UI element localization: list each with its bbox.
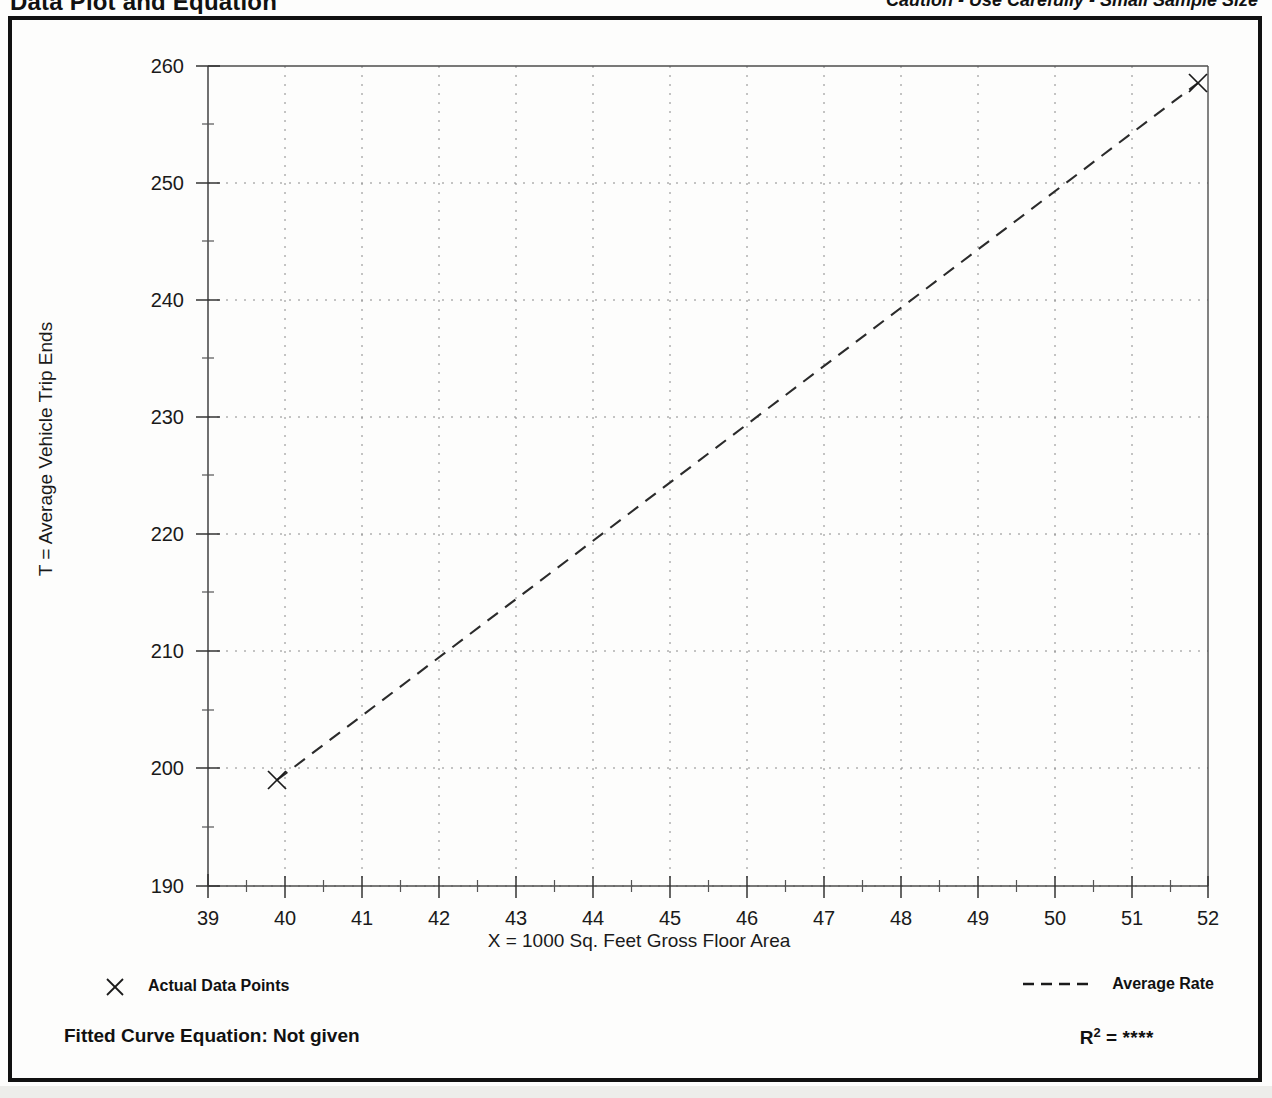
svg-text:210: 210 bbox=[151, 640, 184, 662]
svg-text:48: 48 bbox=[890, 907, 912, 929]
svg-text:40: 40 bbox=[274, 907, 296, 929]
svg-text:230: 230 bbox=[151, 406, 184, 428]
x-tick-labels: 39 40 41 42 43 44 45 46 47 48 49 50 51 5… bbox=[197, 907, 1219, 929]
svg-text:49: 49 bbox=[967, 907, 989, 929]
chart-footer: Fitted Curve Equation: Not given R2 = **… bbox=[12, 1025, 1266, 1065]
page-bottom-edge bbox=[0, 1086, 1272, 1098]
svg-text:220: 220 bbox=[151, 523, 184, 545]
chart-legend: Actual Data Points Average Rate bbox=[12, 975, 1266, 1009]
svg-text:44: 44 bbox=[582, 907, 604, 929]
svg-text:51: 51 bbox=[1121, 907, 1143, 929]
svg-text:47: 47 bbox=[813, 907, 835, 929]
svg-text:260: 260 bbox=[151, 55, 184, 77]
r-squared-exponent: 2 bbox=[1094, 1025, 1101, 1040]
y-tick-labels: 190 200 210 220 230 240 250 260 bbox=[151, 55, 184, 897]
svg-text:52: 52 bbox=[1197, 907, 1219, 929]
svg-text:45: 45 bbox=[659, 907, 681, 929]
r-squared-stars: **** bbox=[1122, 1027, 1154, 1048]
r-squared-equals: = bbox=[1101, 1027, 1123, 1048]
legend-label-data-points: Actual Data Points bbox=[148, 977, 289, 995]
svg-text:42: 42 bbox=[428, 907, 450, 929]
svg-text:50: 50 bbox=[1044, 907, 1066, 929]
scatter-plot-svg: 190 200 210 220 230 240 250 260 39 40 41… bbox=[12, 20, 1266, 1086]
svg-text:200: 200 bbox=[151, 757, 184, 779]
svg-text:39: 39 bbox=[197, 907, 219, 929]
chart-frame: 190 200 210 220 230 240 250 260 39 40 41… bbox=[8, 16, 1262, 1082]
fitted-curve-equation: Fitted Curve Equation: Not given bbox=[64, 1025, 360, 1047]
header-band: Data Plot and Equation Caution - Use Car… bbox=[0, 0, 1272, 14]
page-root: Data Plot and Equation Caution - Use Car… bbox=[0, 0, 1272, 1098]
svg-text:240: 240 bbox=[151, 289, 184, 311]
x-marker-icon bbox=[104, 975, 126, 997]
caution-note: Caution - Use Carefully - Small Sample S… bbox=[886, 0, 1258, 11]
plot-area: 190 200 210 220 230 240 250 260 39 40 41… bbox=[12, 20, 1266, 1086]
svg-text:46: 46 bbox=[736, 907, 758, 929]
svg-text:41: 41 bbox=[351, 907, 373, 929]
dashed-line-icon bbox=[1022, 977, 1094, 991]
page-title: Data Plot and Equation bbox=[10, 0, 277, 14]
svg-text:43: 43 bbox=[505, 907, 527, 929]
legend-label-average-rate: Average Rate bbox=[1112, 975, 1214, 993]
y-axis-title: T = Average Vehicle Trip Ends bbox=[35, 229, 57, 669]
legend-entry-average-rate: Average Rate bbox=[1022, 975, 1214, 993]
legend-entry-data-points: Actual Data Points bbox=[104, 975, 289, 997]
r-squared-prefix: R bbox=[1080, 1027, 1094, 1048]
r-squared-value: R2 = **** bbox=[1080, 1025, 1154, 1049]
svg-text:250: 250 bbox=[151, 172, 184, 194]
svg-text:190: 190 bbox=[151, 875, 184, 897]
x-axis-title: X = 1000 Sq. Feet Gross Floor Area bbox=[12, 930, 1266, 952]
